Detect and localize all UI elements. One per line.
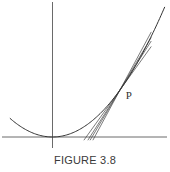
parabola-curve xyxy=(10,7,165,137)
secant-line xyxy=(93,32,151,140)
figure-caption: FIGURE 3.8 xyxy=(0,154,170,166)
point-label-p: P xyxy=(126,89,132,101)
figure-diagram: P xyxy=(0,0,170,150)
